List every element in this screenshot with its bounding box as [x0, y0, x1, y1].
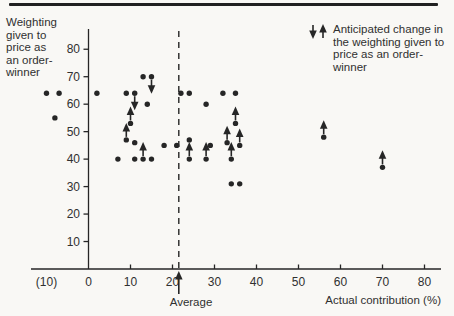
data-point [203, 101, 208, 106]
data-point [224, 140, 229, 145]
data-point [132, 90, 137, 95]
data-point [149, 74, 154, 79]
legend-text: Anticipated change in the weighting give… [333, 23, 448, 73]
data-point [187, 137, 192, 142]
change-up-arrow-icon [232, 106, 240, 115]
data-point [52, 115, 57, 120]
data-point [94, 90, 99, 95]
x-tick-label: 50 [292, 275, 306, 289]
change-down-arrow-icon [131, 102, 139, 111]
data-point [229, 181, 234, 186]
scanned-scatter-figure: 1020304050607080(10)01020304050607080 We… [0, 0, 454, 316]
data-point [187, 156, 192, 161]
x-tick-label: 10 [124, 275, 138, 289]
data-point [233, 90, 238, 95]
data-point [237, 143, 242, 148]
change-up-arrow-icon [320, 120, 328, 129]
data-point [174, 143, 179, 148]
data-point [124, 90, 129, 95]
legend-up-arrow-icon [319, 24, 327, 33]
data-point [208, 143, 213, 148]
data-point [229, 156, 234, 161]
data-point [140, 74, 145, 79]
x-tick-label: 80 [418, 275, 432, 289]
average-label: Average [158, 296, 224, 308]
data-point [128, 121, 133, 126]
y-tick-label: 10 [67, 235, 81, 249]
data-point [145, 101, 150, 106]
legend-down-arrow-icon [309, 31, 317, 40]
data-point [161, 143, 166, 148]
data-point [56, 90, 61, 95]
change-down-arrow-icon [148, 85, 156, 94]
y-axis-title: Weighting given to price as an order- wi… [6, 16, 76, 79]
y-tick-label: 30 [67, 180, 81, 194]
y-tick-label: 40 [67, 152, 81, 166]
x-tick-label: 70 [376, 275, 390, 289]
data-point [220, 90, 225, 95]
x-tick-label: 0 [85, 275, 92, 289]
data-point [140, 156, 145, 161]
data-point [178, 90, 183, 95]
change-up-arrow-icon [379, 150, 387, 159]
data-point [187, 90, 192, 95]
data-point [132, 156, 137, 161]
x-tick-label: 60 [334, 275, 348, 289]
data-point [149, 156, 154, 161]
y-tick-label: 50 [67, 125, 81, 139]
data-point [380, 165, 385, 170]
x-tick-label: 30 [208, 275, 222, 289]
x-tick-label: (10) [36, 275, 57, 289]
change-up-arrow-icon [127, 106, 135, 115]
x-tick-label: 40 [250, 275, 264, 289]
data-point [124, 137, 129, 142]
change-up-arrow-icon [223, 126, 231, 135]
y-tick-label: 60 [67, 97, 81, 111]
data-point [44, 90, 49, 95]
data-point [203, 156, 208, 161]
data-point [321, 134, 326, 139]
y-tick-label: 20 [67, 207, 81, 221]
data-point [132, 140, 137, 145]
change-up-arrow-icon [236, 128, 244, 137]
change-up-arrow-icon [186, 142, 194, 151]
data-point [237, 181, 242, 186]
x-axis-title: Actual contribution (%) [299, 294, 441, 306]
data-point [115, 156, 120, 161]
change-up-arrow-icon [139, 142, 147, 151]
data-point [233, 121, 238, 126]
